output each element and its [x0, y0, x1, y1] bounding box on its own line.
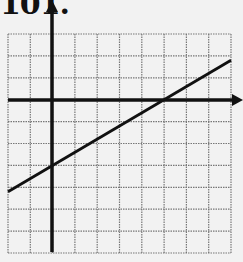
grid: [8, 34, 231, 253]
x-axis-arrow-icon: [232, 94, 243, 106]
x-axis: [8, 94, 243, 106]
coordinate-graph: [0, 0, 243, 262]
y-axis: [46, 0, 58, 252]
y-axis-arrow-icon: [46, 0, 58, 12]
